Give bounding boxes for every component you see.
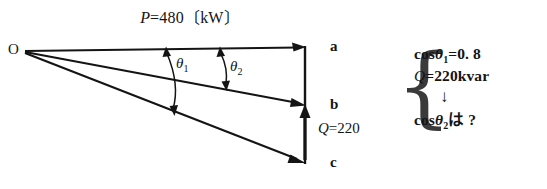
annotation-lines: cosθ1=0. 8 Q=220kvar ↓ cosθ2は ?: [414, 43, 547, 131]
theta-glyph-2: θ: [435, 111, 443, 128]
unit-kvar: kvar: [458, 67, 489, 84]
particle-wa: は: [448, 111, 464, 128]
vector-oc: [25, 53, 306, 163]
label-origin: O: [8, 41, 19, 58]
equals-1: =: [448, 45, 457, 62]
value-1: 0. 8: [457, 45, 481, 62]
label-reactive-power: Q=220: [318, 120, 360, 137]
diagram-page: P=480〔kW〕: [0, 0, 547, 189]
phasor-diagram: [0, 0, 400, 189]
label-theta2: θ2: [230, 58, 242, 77]
label-point-c: c: [330, 154, 337, 171]
label-theta1: θ1: [176, 55, 188, 74]
annotation-line-question: cosθ2は ?: [414, 107, 547, 131]
value-2: 220: [434, 67, 458, 84]
label-point-a: a: [330, 38, 338, 55]
theta2-subscript: 2: [237, 66, 242, 77]
q-symbol: Q: [414, 67, 425, 84]
reactive-value: 220: [337, 120, 360, 136]
angle-arc-theta2: [217, 47, 231, 92]
question-mark: ?: [468, 111, 476, 128]
theta1-subscript: 1: [183, 63, 188, 74]
annotation-line-reactive-power: Q=220kvar: [414, 65, 547, 87]
cos-text-2: cos: [414, 111, 435, 128]
vector-cb-reactive: [300, 104, 311, 160]
vector-ob: [25, 52, 306, 107]
annotation-block: { cosθ1=0. 8 Q=220kvar ↓ cosθ2は ?: [396, 43, 547, 143]
label-point-b: b: [330, 96, 338, 113]
down-arrow-icon: ↓: [414, 87, 547, 107]
equals-2: =: [425, 67, 434, 84]
annotation-line-cos-theta1: cosθ1=0. 8: [414, 43, 547, 65]
cos-text-1: cos: [414, 45, 435, 62]
theta-glyph-1: θ: [435, 45, 443, 62]
reactive-symbol: Q: [318, 120, 329, 136]
